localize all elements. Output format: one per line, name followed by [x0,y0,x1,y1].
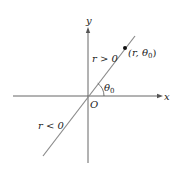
point-label: (r, θ0) [128,47,156,60]
point-marker [123,46,127,50]
negative-r-label: r < 0 [38,120,65,131]
x-axis-arrow-icon [157,94,163,98]
polar-line-diagram: y x O r > 0 r < 0 (r, θ0) θ0 [0,0,180,175]
y-axis-arrow-icon [86,27,90,33]
angle-label: θ0 [104,82,115,95]
positive-r-label: r > 0 [92,53,119,64]
y-axis-label: y [85,15,92,26]
origin-label: O [90,99,98,110]
x-axis-label: x [164,91,170,102]
